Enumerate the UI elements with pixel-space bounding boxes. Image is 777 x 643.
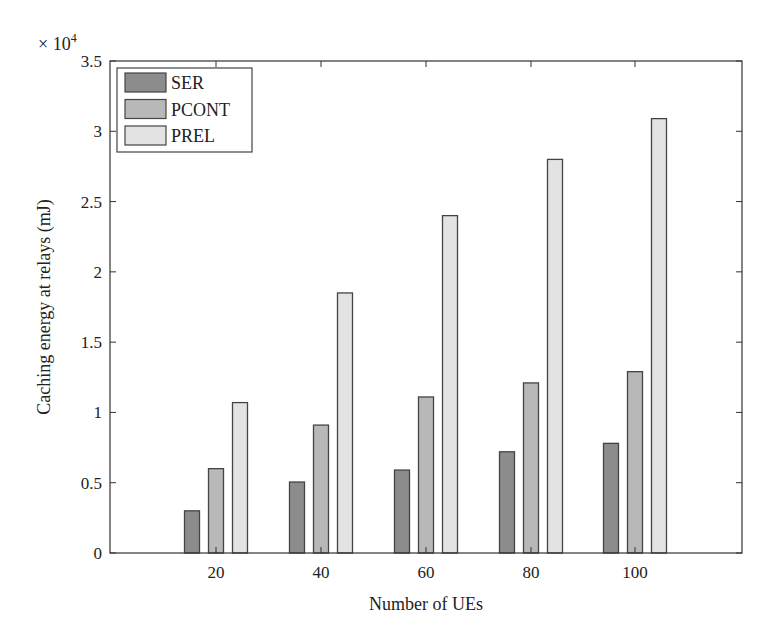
bar-chart: 00.511.522.533.5 20406080100 × 104 Numbe… [0, 0, 777, 643]
y-tick-label: 2.5 [81, 193, 102, 212]
bar-ser [604, 443, 619, 553]
legend-swatch-ser [125, 73, 166, 92]
bar-pcont [314, 425, 329, 553]
bar-pcont [209, 469, 224, 553]
y-axis-label: Caching energy at relays (mJ) [34, 199, 55, 415]
bar-prel [652, 119, 667, 553]
x-tick-label: 20 [208, 563, 225, 582]
legend-label-pcont: PCONT [171, 100, 230, 120]
y-tick-label: 2 [94, 263, 103, 282]
y-multiplier: × 104 [38, 31, 77, 54]
y-tick-label: 3.5 [81, 52, 102, 71]
bar-ser [290, 482, 305, 553]
bars-group [185, 119, 667, 553]
x-tick-label: 60 [418, 563, 435, 582]
legend-swatch-pcont [125, 100, 166, 119]
x-tick-label: 40 [313, 563, 330, 582]
bar-ser [500, 452, 515, 553]
bar-ser [185, 511, 200, 553]
x-tick-label: 80 [523, 563, 540, 582]
legend: SERPCONTPREL [117, 68, 252, 152]
y-tick-label: 0 [94, 544, 103, 563]
legend-swatch-prel [125, 126, 166, 145]
bar-ser [395, 470, 410, 553]
legend-label-ser: SER [171, 73, 204, 93]
y-tick-label: 1.5 [81, 333, 102, 352]
bar-prel [443, 216, 458, 553]
x-axis-label: Number of UEs [369, 594, 483, 614]
bar-pcont [419, 397, 434, 553]
bar-prel [548, 159, 563, 553]
y-tick-label: 3 [94, 122, 103, 141]
legend-label-prel: PREL [171, 126, 215, 146]
y-tick-label: 1 [94, 403, 103, 422]
bar-pcont [628, 372, 643, 553]
x-tick-label: 100 [622, 563, 648, 582]
bar-prel [233, 403, 248, 553]
y-tick-label: 0.5 [81, 474, 102, 493]
bar-prel [338, 293, 353, 553]
bar-pcont [524, 383, 539, 553]
